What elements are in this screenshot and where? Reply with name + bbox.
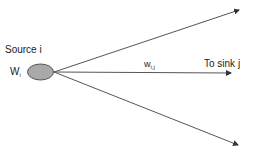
edge-weight-label: wi,j	[144, 59, 155, 70]
source-label: Source i	[5, 44, 42, 55]
edge-middle-arrow	[54, 72, 231, 73]
sink-label: To sink j	[204, 58, 240, 69]
edge-down-arrow	[54, 72, 238, 145]
node-weight-label: Wi	[10, 66, 21, 78]
diagram-canvas	[0, 0, 259, 153]
node-weight-sub: i	[19, 72, 20, 78]
source-node	[28, 64, 54, 80]
edge-weight-sub: i,j	[151, 64, 155, 70]
